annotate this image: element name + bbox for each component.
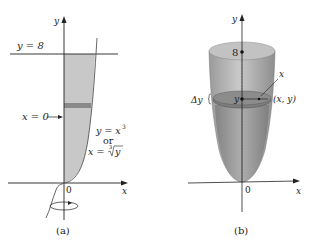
x-axis-arrow-a	[121, 181, 128, 186]
boundary-x0-label: x = 0	[22, 111, 49, 122]
origin-label-b: 0	[245, 185, 251, 195]
y-axis-arrow-a	[62, 16, 67, 23]
pointer-arrowhead-x0	[58, 115, 63, 119]
rotation-arrowhead	[68, 201, 72, 205]
point-xy	[258, 98, 261, 101]
x-axis-label-b: x	[296, 186, 301, 196]
thickness-label: Δy	[190, 95, 203, 105]
curve-label-cuberoot: x =	[88, 146, 104, 157]
radius-x-label: x	[279, 69, 284, 79]
horizontal-strip	[64, 103, 91, 108]
curve-label-radicand: y	[114, 146, 121, 157]
x-axis-label-a: x	[122, 186, 127, 196]
line-y8-label: y = 8	[16, 40, 44, 51]
point-xy-label: (x, y)	[273, 94, 296, 104]
y-axis-label-b: y	[231, 14, 238, 24]
curve-label-root-index: 3	[109, 144, 112, 150]
thickness-brace-icon	[208, 94, 211, 104]
curve-equation-label: y = x 3 or x = 3 y	[88, 123, 126, 157]
x-axis-arrow-b	[293, 179, 300, 184]
y-axis-arrow-b	[240, 14, 245, 21]
y-axis-label-a: y	[53, 16, 60, 26]
diagram-canvas: y x 0 y = 8 x = 0 y = x 3 or x = 3 y (a)	[0, 0, 309, 243]
curve-label-cubic-exponent: 3	[122, 123, 126, 130]
top-height-label: 8	[232, 47, 238, 58]
caption-b: (b)	[234, 225, 248, 236]
slice-y-label: y	[233, 94, 240, 104]
origin-label-a: 0	[66, 185, 72, 195]
panel-a: y x 0 y = 8 x = 0 y = x 3 or x = 3 y (a)	[8, 16, 128, 236]
panel-b: y 8 y x (x, y) Δy x 0 (b)	[188, 14, 301, 236]
caption-a: (a)	[56, 225, 70, 236]
point-y8	[240, 50, 244, 54]
